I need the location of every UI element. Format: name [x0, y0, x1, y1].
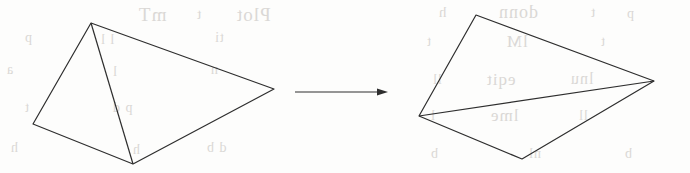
transformation-arrow-group	[295, 89, 388, 96]
left-polygon-group	[33, 23, 274, 164]
scanned-figure-page: PlotmTtpl ltialntp dhhd bhdonntptlMtlleq…	[0, 0, 690, 173]
source-polygon-outline	[33, 23, 274, 164]
target-polygon-outline	[419, 15, 654, 159]
source-polygon-diagonal	[91, 23, 133, 164]
geometry-figure	[0, 0, 690, 173]
right-polygon-group	[419, 15, 654, 159]
transformation-arrow-head	[377, 89, 388, 96]
target-polygon-diagonal	[419, 81, 654, 116]
